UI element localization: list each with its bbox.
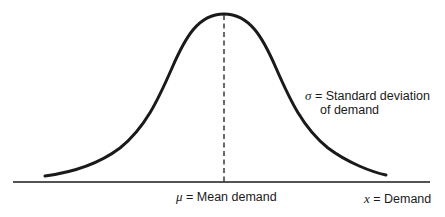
mean-text: = Mean demand bbox=[183, 190, 277, 204]
sigma-label: σ = Standard deviation bbox=[305, 88, 430, 104]
sigma-text: = Standard deviation bbox=[311, 89, 430, 103]
mean-label: μ = Mean demand bbox=[176, 189, 277, 205]
sigma-label-line2: of demand bbox=[320, 103, 379, 118]
x-text: = Demand bbox=[370, 192, 432, 206]
x-axis-label: x = Demand bbox=[364, 191, 431, 207]
